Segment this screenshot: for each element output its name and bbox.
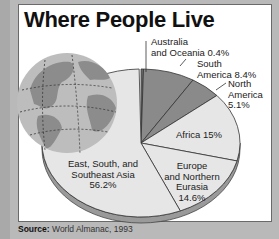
- label-africa: Africa 15%: [176, 130, 222, 141]
- label-line: Europe: [160, 161, 224, 172]
- label-line: North: [228, 79, 263, 90]
- label-line: East, South, and: [58, 159, 148, 170]
- label-line: Australia: [151, 37, 229, 48]
- label-line: and Oceania 0.4%: [151, 48, 229, 59]
- label-line: 56.2%: [58, 180, 148, 191]
- label-north-america: North America 5.1%: [228, 79, 263, 111]
- pie-chart: [0, 0, 279, 239]
- label-line: South: [197, 59, 256, 70]
- label-europe: Europe and Northern Eurasia 14.6%: [160, 161, 224, 203]
- label-australia: Australia and Oceania 0.4%: [151, 37, 229, 58]
- source-prefix: Source:: [18, 224, 50, 234]
- chart-title: Where People Live: [24, 7, 215, 33]
- label-line: Eurasia: [160, 182, 224, 193]
- source-text: World Almanac, 1993: [50, 224, 133, 234]
- label-south-america: South America 8.4%: [197, 59, 256, 80]
- label-line: 5.1%: [228, 100, 263, 111]
- label-line: 14.6%: [160, 193, 224, 204]
- label-asia: East, South, and Southeast Asia 56.2%: [58, 159, 148, 191]
- source-note: Source: World Almanac, 1993: [18, 224, 133, 234]
